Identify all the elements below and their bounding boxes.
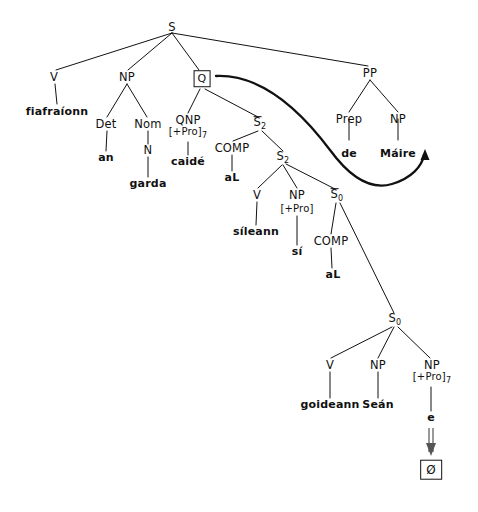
sbar2-upper-subscript: 2: [261, 122, 266, 131]
node-sbar0[interactable]: S0: [331, 188, 344, 204]
q-box-label: Q: [194, 70, 211, 87]
node-comp-lower[interactable]: COMP: [314, 235, 349, 247]
terminal-maire[interactable]: Máire: [380, 148, 416, 160]
sbar0-label: S: [331, 188, 339, 201]
node-null-boxed[interactable]: Ø: [420, 464, 442, 477]
terminal-an[interactable]: an: [98, 152, 114, 164]
terminal-goideann[interactable]: goideann: [300, 399, 359, 411]
node-s2[interactable]: S2: [277, 150, 290, 166]
node-np-subject[interactable]: NP: [119, 71, 135, 83]
terminal-si[interactable]: sí: [292, 246, 303, 258]
node-comp-upper[interactable]: COMP: [215, 142, 250, 154]
node-nom[interactable]: Nom: [134, 118, 161, 130]
qnp-feature-index: 7: [202, 131, 207, 140]
node-s0[interactable]: S0: [389, 312, 402, 328]
node-root-s[interactable]: S: [168, 21, 176, 33]
tree-node-labels: S V fiafraíonn NP Det an Nom N garda Q Q…: [0, 0, 478, 512]
np-trace-feature-index: 7: [446, 376, 451, 385]
node-qnp[interactable]: QNP: [175, 114, 200, 126]
terminal-fiafraionn[interactable]: fiafraíonn: [26, 106, 89, 118]
node-pp[interactable]: PP: [363, 67, 377, 79]
node-v-lower[interactable]: V: [326, 359, 334, 371]
node-np-trace-features: [+Pro]7: [413, 372, 452, 385]
terminal-empty-category-e[interactable]: e: [427, 412, 435, 424]
terminal-caide[interactable]: caidé: [171, 156, 205, 168]
null-symbol-label: Ø: [420, 460, 442, 480]
s2-label: S: [277, 149, 285, 163]
terminal-al-upper[interactable]: aL: [225, 172, 240, 184]
sbar0-subscript: 0: [338, 194, 343, 203]
node-v-matrix[interactable]: V: [50, 71, 58, 83]
node-np-si[interactable]: NP: [289, 189, 305, 201]
node-np-trace[interactable]: NP: [424, 359, 440, 371]
np-trace-feature-label: [+Pro]: [413, 371, 446, 382]
terminal-de[interactable]: de: [341, 148, 357, 160]
terminal-garda[interactable]: garda: [129, 178, 166, 190]
s2-subscript: 2: [284, 156, 289, 165]
terminal-sean[interactable]: Seán: [362, 399, 393, 411]
terminal-al-lower[interactable]: aL: [326, 269, 341, 281]
node-q-boxed[interactable]: Q: [194, 73, 211, 85]
node-n[interactable]: N: [144, 144, 153, 156]
node-v-middle[interactable]: V: [253, 189, 261, 201]
node-np-sean[interactable]: NP: [370, 359, 386, 371]
node-prep[interactable]: Prep: [336, 113, 362, 125]
node-sbar2-upper[interactable]: S2: [254, 116, 267, 132]
s0-label: S: [389, 311, 397, 325]
sbar2-upper-label: S: [254, 116, 262, 129]
s0-subscript: 0: [396, 318, 401, 327]
node-np-si-features: [+Pro]: [280, 204, 313, 215]
qnp-feature-label: [+Pro]: [169, 126, 202, 137]
node-np-maire[interactable]: NP: [390, 113, 406, 125]
terminal-sileann[interactable]: síleann: [233, 226, 279, 238]
node-det[interactable]: Det: [95, 118, 116, 130]
node-qnp-features: [+Pro]7: [169, 127, 208, 140]
